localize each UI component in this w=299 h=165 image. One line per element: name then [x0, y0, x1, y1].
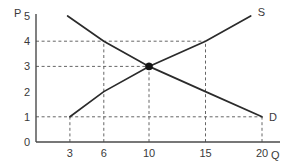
- x-tick-label: 3: [67, 147, 73, 159]
- x-tick-label: 6: [101, 147, 107, 159]
- curves-group: [68, 16, 262, 117]
- tick-labels-group: 36101520012345: [24, 10, 268, 159]
- y-tick-label: 5: [24, 10, 30, 22]
- y-tick-label: 0: [24, 136, 30, 148]
- x-axis-title: Q: [271, 149, 280, 161]
- y-tick-label: 3: [24, 60, 30, 72]
- x-tick-label: 15: [199, 147, 211, 159]
- y-axis-title: P: [14, 7, 21, 19]
- curve-labels-group: DS: [258, 6, 277, 123]
- curve-d: [68, 16, 262, 117]
- equilibrium-group: [145, 63, 152, 70]
- chart-canvas: 36101520012345 PQ DS: [0, 0, 299, 165]
- guide-lines-group: [36, 41, 262, 142]
- equilibrium-point: [145, 63, 152, 70]
- curve-s: [70, 16, 251, 117]
- y-tick-label: 1: [24, 111, 30, 123]
- supply-demand-chart: 36101520012345 PQ DS: [0, 0, 299, 165]
- axis-titles-group: PQ: [14, 7, 280, 161]
- x-tick-label: 20: [256, 147, 268, 159]
- x-tick-label: 10: [143, 147, 155, 159]
- y-tick-label: 4: [24, 35, 30, 47]
- curve-label-d: D: [269, 111, 277, 123]
- axes-group: [36, 14, 280, 142]
- curve-label-s: S: [258, 6, 265, 18]
- y-tick-label: 2: [24, 86, 30, 98]
